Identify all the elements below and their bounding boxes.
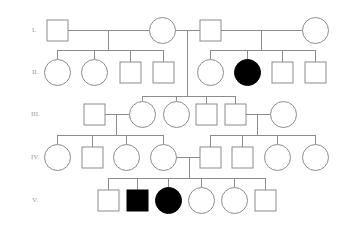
male-square-icon xyxy=(200,20,221,41)
generation-label-1: I. xyxy=(32,26,36,34)
male-square-icon xyxy=(225,104,246,125)
male-square-icon xyxy=(84,104,105,125)
male-square-icon xyxy=(120,62,141,83)
male-square-icon xyxy=(272,62,293,83)
female-circle-icon xyxy=(150,18,176,44)
male-square-icon xyxy=(232,147,253,168)
female-circle-icon xyxy=(164,102,190,128)
male-square-icon xyxy=(98,190,119,211)
female-circle-icon xyxy=(265,145,291,171)
affected-female-circle-icon xyxy=(235,60,261,86)
female-circle-icon xyxy=(45,60,71,86)
generation-labels: I. II. III. IV. V. xyxy=(31,26,40,204)
female-circle-icon xyxy=(303,145,329,171)
male-square-icon xyxy=(255,190,276,211)
male-square-icon xyxy=(47,20,68,41)
generation-label-2: II. xyxy=(32,68,39,76)
female-circle-icon xyxy=(130,102,156,128)
affected-male-square-icon xyxy=(127,190,148,211)
generation-label-4: IV. xyxy=(31,153,39,161)
female-circle-icon xyxy=(222,188,248,214)
individuals xyxy=(45,18,329,214)
male-square-icon xyxy=(200,147,221,168)
male-square-icon xyxy=(305,62,326,83)
female-circle-icon xyxy=(151,145,177,171)
female-circle-icon xyxy=(198,60,224,86)
female-circle-icon xyxy=(82,60,108,86)
generation-label-3: III. xyxy=(31,110,40,118)
female-circle-icon xyxy=(114,145,140,171)
pedigree-chart: I. II. III. IV. V. xyxy=(0,0,345,225)
male-square-icon xyxy=(153,62,174,83)
male-square-icon xyxy=(82,147,103,168)
female-circle-icon xyxy=(189,188,215,214)
male-square-icon xyxy=(196,104,217,125)
generation-label-5: V. xyxy=(32,196,38,204)
female-circle-icon xyxy=(271,102,297,128)
female-circle-icon xyxy=(45,145,71,171)
affected-female-circle-icon xyxy=(156,188,182,214)
female-circle-icon xyxy=(303,18,329,44)
